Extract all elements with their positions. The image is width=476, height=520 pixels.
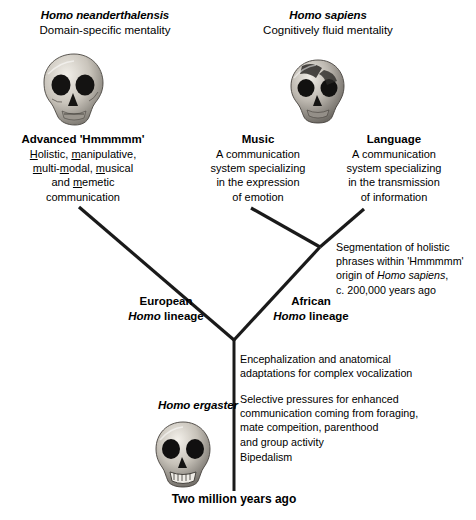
annotation-selective-pressures: Selective pressures for enhanced communi… <box>240 392 476 449</box>
phylogenetic-diagram: Homo neanderthalensis Domain-specific me… <box>0 0 476 520</box>
neanderthal-mentality: Domain-specific mentality <box>0 23 210 38</box>
music-description: A communication system specializing in t… <box>194 147 322 204</box>
trunk-1-line-1: Encephalization and anatomical <box>240 352 476 366</box>
hmmmmm-description: Holistic, manipulative, multi-modal, mus… <box>0 147 166 204</box>
segmentation-line-1: Segmentation of holistic <box>336 240 476 254</box>
music-line-1: A communication <box>194 147 322 161</box>
trunk-2-line-1: Selective pressures for enhanced <box>240 392 476 406</box>
label-european-lineage: European Homo lineage <box>112 294 220 324</box>
trunk-3-line-1: Bipedalism <box>240 450 476 464</box>
segmentation-line-2: phrases within 'Hmmmmm' <box>336 254 476 268</box>
node-sapiens-label: Homo sapiens Cognitively fluid mentality <box>228 8 428 37</box>
root-time-label: Two million years ago <box>124 492 344 506</box>
node-neanderthal-label: Homo neanderthalensis Domain-specific me… <box>0 8 210 37</box>
skull-neanderthal-icon <box>40 52 108 126</box>
skull-sapiens-icon <box>288 58 348 124</box>
music-line-4: of emotion <box>194 190 322 204</box>
ergaster-species-name: Homo ergaster <box>122 398 274 413</box>
trunk-2-line-2: communication coming from foraging, <box>240 406 476 420</box>
neanderthal-species-name: Homo neanderthalensis <box>0 8 210 23</box>
language-line-4: of information <box>326 190 462 204</box>
trunk-1-line-2: adaptations for complex vocalization <box>240 366 476 380</box>
trunk-2-line-4: and group activity <box>240 435 476 449</box>
trunk-2-line-3: mate compeition, parenthood <box>240 420 476 434</box>
segmentation-line-3: origin of Homo sapiens, <box>336 268 476 282</box>
node-music: Music A communication system specializin… <box>194 132 322 204</box>
annotation-segmentation: Segmentation of holistic phrases within … <box>336 240 476 297</box>
branch-music <box>251 208 320 247</box>
language-description: A communication system specializing in t… <box>326 147 462 204</box>
language-heading: Language <box>326 132 462 147</box>
node-advanced-hmmmmm: Advanced 'Hmmmmm' Holistic, manipulative… <box>0 132 166 204</box>
african-lineage-text: Homo lineage <box>256 309 366 324</box>
node-ergaster-label: Homo ergaster <box>122 398 274 413</box>
node-language: Language A communication system speciali… <box>326 132 462 204</box>
european-region: European <box>112 294 220 309</box>
african-region: African <box>256 294 366 309</box>
label-african-lineage: African Homo lineage <box>256 294 366 324</box>
language-line-1: A communication <box>326 147 462 161</box>
music-heading: Music <box>194 132 322 147</box>
skull-ergaster-icon <box>152 420 214 488</box>
music-line-2: system specializing <box>194 161 322 175</box>
hmmmmm-heading: Advanced 'Hmmmmm' <box>0 132 166 147</box>
language-line-2: system specializing <box>326 161 462 175</box>
annotation-bipedalism: Bipedalism <box>240 450 476 464</box>
language-line-3: in the transmission <box>326 175 462 189</box>
music-line-3: in the expression <box>194 175 322 189</box>
sapiens-species-name: Homo sapiens <box>228 8 428 23</box>
european-lineage-text: Homo lineage <box>112 309 220 324</box>
sapiens-mentality: Cognitively fluid mentality <box>228 23 428 38</box>
annotation-encephalization: Encephalization and anatomical adaptatio… <box>240 352 476 380</box>
